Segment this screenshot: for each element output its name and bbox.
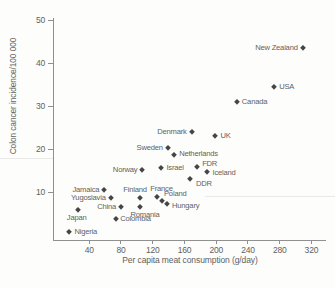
data-point-marker-china bbox=[118, 205, 124, 211]
data-point-marker-norway bbox=[139, 167, 145, 173]
data-point-marker-israel bbox=[158, 165, 164, 171]
x-tick bbox=[247, 240, 248, 244]
y-tick bbox=[48, 149, 53, 150]
data-point-marker-finland bbox=[137, 195, 143, 201]
data-point-label-denmark: Denmark bbox=[157, 128, 186, 136]
x-tick-label: 240 bbox=[241, 245, 255, 255]
data-point-label-new-zealand: New Zealand bbox=[255, 44, 298, 52]
data-point-label-romania: Romania bbox=[131, 211, 160, 219]
data-point-label-sweden: Sweden bbox=[137, 144, 163, 152]
y-tick-label: 30 bbox=[36, 101, 45, 111]
data-point-label-jamaica: Jamaica bbox=[72, 186, 99, 194]
data-point-label-usa: USA bbox=[279, 83, 294, 91]
y-tick bbox=[48, 106, 53, 107]
x-tick-label: 40 bbox=[85, 245, 94, 255]
data-point-label-hungary: Hungary bbox=[172, 202, 199, 210]
data-point-marker-hungary bbox=[164, 201, 170, 207]
data-point-marker-netherlands bbox=[171, 152, 177, 158]
x-tick-label: 120 bbox=[146, 245, 160, 255]
scan-artifact-line-right bbox=[205, 196, 335, 197]
data-point-marker-denmark bbox=[189, 129, 195, 135]
data-point-marker-ddr bbox=[187, 176, 193, 182]
y-tick-label: 10 bbox=[36, 187, 45, 197]
data-point-marker-yugoslavia bbox=[108, 195, 114, 201]
colon-cancer-meat-scatter-chart: Colon cancer incidence/100 000 Per capit… bbox=[0, 0, 335, 288]
y-tick-label: 40 bbox=[36, 58, 45, 68]
data-point-marker-iceland bbox=[205, 169, 211, 175]
data-point-label-iceland: Iceland bbox=[212, 169, 235, 177]
x-axis-line bbox=[53, 240, 327, 241]
data-point-marker-usa bbox=[271, 84, 277, 90]
data-point-label-netherlands: Netherlands bbox=[179, 150, 218, 158]
x-tick bbox=[89, 240, 90, 244]
x-tick bbox=[184, 240, 185, 244]
data-point-label-yugoslavia: Yugoslavia bbox=[71, 195, 106, 203]
data-point-label-israel: Israel bbox=[166, 165, 183, 173]
data-point-marker-sweden bbox=[165, 145, 171, 151]
x-tick-label: 160 bbox=[178, 245, 192, 255]
data-point-marker-nigeria bbox=[66, 229, 72, 235]
data-point-marker-colombia bbox=[113, 216, 119, 222]
y-tick bbox=[48, 20, 53, 21]
x-tick bbox=[216, 240, 217, 244]
x-tick bbox=[279, 240, 280, 244]
x-axis-title: Per capita meat consumption (g/day) bbox=[122, 255, 257, 265]
scan-artifact-line-left bbox=[0, 158, 53, 159]
data-point-label-uk: UK bbox=[220, 132, 230, 140]
data-point-label-fdr: FDR bbox=[202, 160, 217, 168]
data-point-label-nigeria: Nigeria bbox=[74, 229, 97, 237]
x-tick-label: 80 bbox=[116, 245, 125, 255]
data-point-marker-jamaica bbox=[101, 187, 107, 193]
data-point-label-japan: Japan bbox=[67, 214, 87, 222]
data-point-marker-uk bbox=[212, 133, 218, 139]
y-tick bbox=[48, 63, 53, 64]
data-point-label-poland: Poland bbox=[164, 190, 186, 198]
y-tick bbox=[48, 192, 53, 193]
data-point-marker-fdr bbox=[194, 164, 200, 170]
data-point-label-canada: Canada bbox=[242, 98, 267, 106]
x-tick-label: 320 bbox=[305, 245, 319, 255]
x-tick bbox=[120, 240, 121, 244]
y-tick-label: 50 bbox=[36, 15, 45, 25]
data-point-label-finland: Finland bbox=[123, 187, 147, 195]
data-point-label-china: China bbox=[97, 204, 116, 212]
data-point-label-norway: Norway bbox=[113, 166, 138, 174]
data-point-marker-new-zealand bbox=[300, 45, 306, 51]
data-point-marker-canada bbox=[234, 99, 240, 105]
y-axis-line bbox=[53, 18, 54, 241]
x-tick bbox=[152, 240, 153, 244]
x-tick-label: 200 bbox=[209, 245, 223, 255]
y-tick-label: 20 bbox=[36, 144, 45, 154]
x-tick bbox=[311, 240, 312, 244]
y-axis-title: Colon cancer incidence/100 000 bbox=[8, 38, 18, 155]
data-point-label-ddr: DDR bbox=[196, 180, 212, 188]
x-tick-label: 280 bbox=[273, 245, 287, 255]
